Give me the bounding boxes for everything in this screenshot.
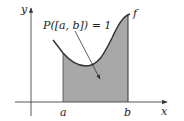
y-axis-label: y — [20, 3, 28, 16]
upper-bound-label: b — [124, 106, 131, 119]
function-label: f — [132, 7, 139, 20]
x-axis-label: x — [161, 105, 168, 118]
annotation-label: P([a, b]) = 1 — [42, 19, 111, 32]
lower-bound-label: a — [60, 106, 67, 119]
probability-density-diagram: P([a, b]) = 1 f y x a b — [0, 0, 184, 121]
